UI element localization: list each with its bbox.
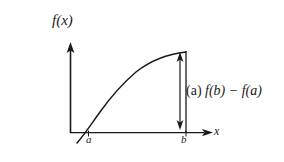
net-change-double-arrow (177, 52, 184, 130)
y-axis (67, 42, 75, 133)
y-axis-label: f(x) (52, 12, 73, 29)
curve-f (77, 52, 186, 143)
net-change-annotation: (a) f(b) − f(a) (186, 83, 262, 99)
x-axis-label: x (214, 124, 219, 139)
tick-label-a: a (86, 133, 92, 145)
diagram-svg (0, 0, 284, 162)
annotation-tag: (a) (186, 83, 202, 98)
tick-label-b: b (181, 133, 187, 145)
figure-canvas: f(x) x a b (a) f(b) − f(a) (0, 0, 284, 162)
annotation-expression: f(b) − f(a) (205, 83, 262, 98)
